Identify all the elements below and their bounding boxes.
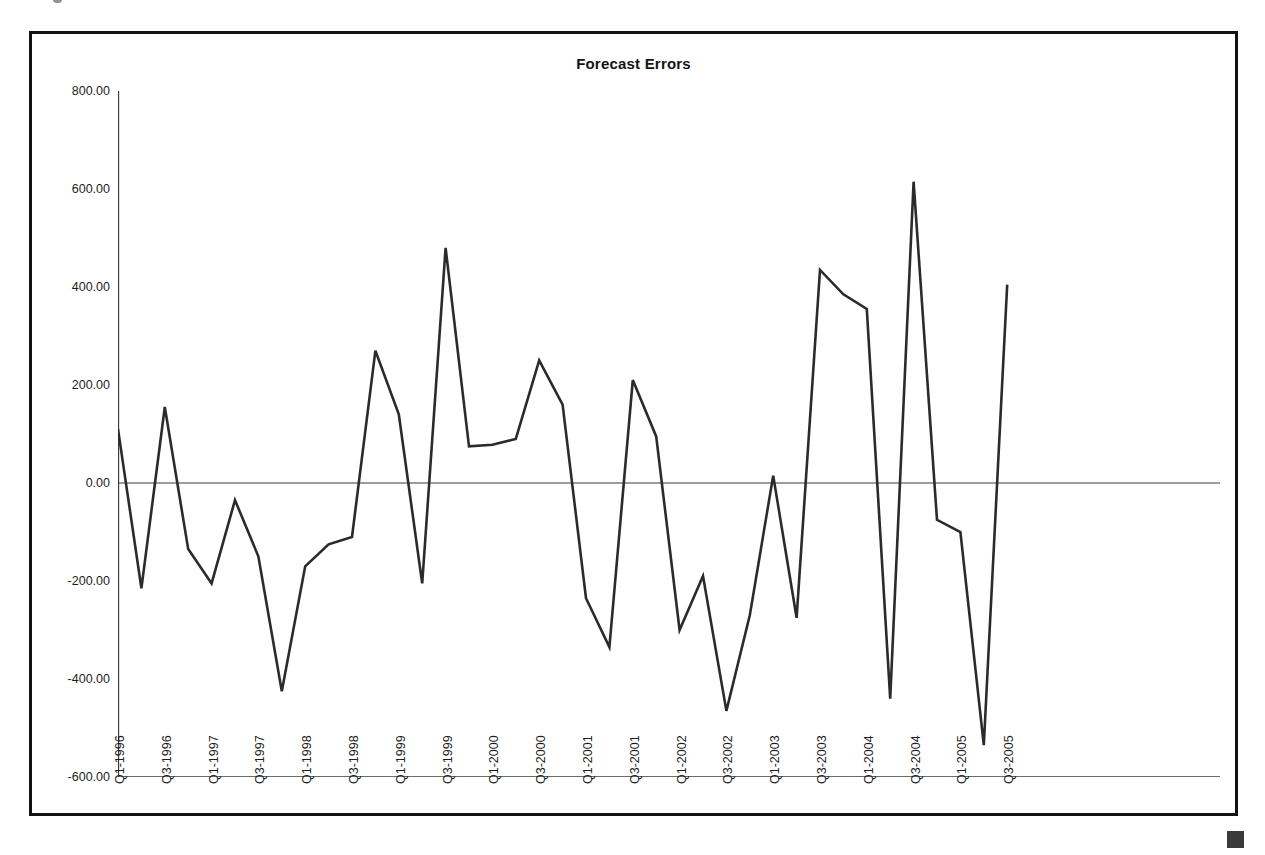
page-corner-mark <box>1227 831 1244 848</box>
x-axis-tick-label: Q3-2004 <box>909 735 923 784</box>
x-axis-tick-label: Q3-2003 <box>815 735 829 784</box>
chart-figure-frame: Forecast Errors 800.00600.00400.00200.00… <box>29 31 1238 816</box>
x-axis-tick-label: Q3-2001 <box>628 735 642 784</box>
x-axis-tick-label: Q3-1997 <box>253 735 267 784</box>
x-axis-tick-label: Q3-2000 <box>534 735 548 784</box>
x-axis-tick-label: Q3-1998 <box>347 735 361 784</box>
x-axis-tick-label: Q1-1997 <box>207 735 221 784</box>
x-axis-tick-label: Q3-1996 <box>160 735 174 784</box>
x-axis-tick-label: Q3-2002 <box>721 735 735 784</box>
x-axis-tick-label: Q1-2000 <box>487 735 501 784</box>
x-axis-tick-label: Q1-1996 <box>113 735 127 784</box>
x-axis-tick-label: Q1-2002 <box>675 735 689 784</box>
x-axis-tick-label: Q1-1998 <box>300 735 314 784</box>
x-axis-tick-label: Q1-2004 <box>862 735 876 784</box>
x-axis-tick-label: Q1-2003 <box>768 735 782 784</box>
x-axis-tick-label: Q1-2001 <box>581 735 595 784</box>
scan-artifact <box>53 0 62 3</box>
x-axis-tick-label: Q1-2005 <box>955 735 969 784</box>
x-axis-tick-labels: Q1-1996Q3-1996Q1-1997Q3-1997Q1-1998Q3-19… <box>32 34 1241 819</box>
x-axis-tick-label: Q3-2005 <box>1002 735 1016 784</box>
x-axis-tick-label: Q3-1999 <box>441 735 455 784</box>
x-axis-tick-label: Q1-1999 <box>394 735 408 784</box>
